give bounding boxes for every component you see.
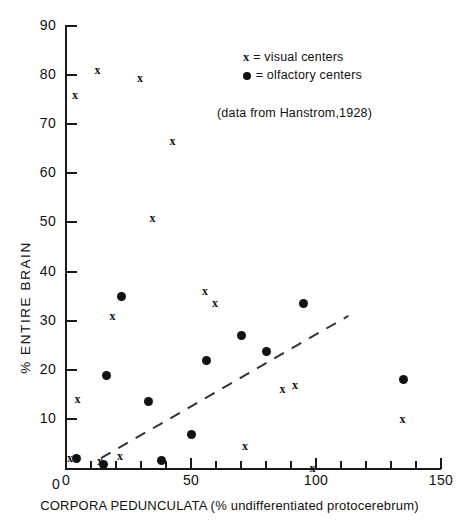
x-tick-minor — [90, 461, 92, 469]
legend: x = visual centers = olfactory centers — [243, 48, 362, 84]
data-point-olfactory — [237, 331, 246, 340]
y-tick-label: 60 — [24, 164, 56, 180]
x-marker-icon: x — [243, 50, 249, 64]
x-tick-minor — [390, 461, 392, 469]
x-tick-minor — [140, 461, 142, 469]
data-point-olfactory — [187, 430, 196, 439]
y-tick — [67, 320, 77, 322]
data-point-olfactory — [99, 460, 108, 469]
y-axis-label: % ENTIRE BRAIN — [18, 233, 33, 383]
data-point-olfactory — [262, 347, 271, 356]
y-axis-line — [65, 25, 67, 470]
y-tick — [67, 74, 77, 76]
x-tick-minor — [365, 461, 367, 469]
data-point-olfactory — [157, 456, 166, 465]
x-tick-label: 100 — [296, 472, 336, 488]
scatter-plot-figure: 0102030405060708090 050100150 % ENTIRE B… — [0, 0, 459, 526]
data-point-olfactory — [399, 375, 408, 384]
x-tick — [190, 458, 192, 469]
data-point-visual: x — [242, 440, 248, 452]
data-point-olfactory — [144, 397, 153, 406]
data-point-visual: x — [75, 393, 81, 405]
y-tick-label: 80 — [24, 66, 56, 82]
data-point-olfactory — [102, 371, 111, 380]
y-tick — [67, 369, 77, 371]
data-point-visual: x — [72, 89, 78, 101]
data-point-visual: x — [400, 413, 406, 425]
y-tick — [67, 418, 77, 420]
data-point-visual: x — [170, 135, 176, 147]
data-point-visual: x — [202, 285, 208, 297]
y-tick — [67, 271, 77, 273]
y-tick-label: 90 — [24, 17, 56, 33]
x-tick — [440, 458, 442, 469]
x-tick-minor — [240, 461, 242, 469]
data-point-visual: x — [212, 297, 218, 309]
data-point-visual: x — [280, 383, 286, 395]
data-point-olfactory — [117, 292, 126, 301]
data-point-visual: x — [137, 72, 143, 84]
dot-marker-icon — [243, 72, 251, 80]
y-tick-label: 70 — [24, 115, 56, 131]
data-point-visual: x — [310, 462, 316, 474]
x-tick-label: 50 — [171, 472, 211, 488]
legend-item-visual: x = visual centers — [243, 48, 362, 66]
x-tick-label: 0 — [46, 472, 86, 488]
y-tick — [67, 172, 77, 174]
y-tick-label: 50 — [24, 213, 56, 229]
x-axis-line — [65, 468, 441, 470]
x-tick-label: 150 — [421, 472, 459, 488]
x-tick-minor — [290, 461, 292, 469]
data-point-visual: x — [150, 212, 156, 224]
data-point-olfactory — [72, 454, 81, 463]
legend-item-olfactory: = olfactory centers — [243, 66, 362, 84]
data-point-olfactory — [299, 299, 308, 308]
data-point-visual: x — [110, 310, 116, 322]
source-annotation: (data from Hanstrom,1928) — [217, 106, 372, 120]
y-tick-label: 10 — [24, 410, 56, 426]
data-point-visual: x — [292, 379, 298, 391]
y-tick — [67, 123, 77, 125]
trendline — [0, 0, 459, 526]
x-tick-minor — [340, 461, 342, 469]
legend-label-olfactory: = olfactory centers — [256, 68, 362, 82]
y-tick — [67, 25, 77, 27]
data-point-visual: x — [117, 450, 123, 462]
x-tick-minor — [265, 461, 267, 469]
x-tick-minor — [215, 461, 217, 469]
data-point-olfactory — [202, 356, 211, 365]
data-point-visual: x — [95, 64, 101, 76]
x-tick-minor — [415, 461, 417, 469]
x-axis-label: CORPORA PEDUNCULATA (% undifferentiated … — [0, 498, 459, 513]
y-tick — [67, 221, 77, 223]
legend-label-visual: = visual centers — [253, 50, 343, 64]
